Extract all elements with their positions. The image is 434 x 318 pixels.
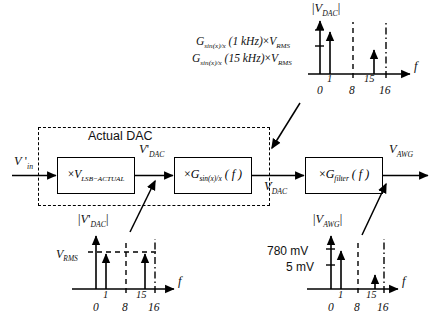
spectrum-vdac-prime-tick-8: 8 (122, 302, 128, 314)
annotation-gain-15khz: Gsin(x)/x (15 kHz)×VRMS (192, 53, 292, 67)
spectrum-vawg-tick-15: 15 (366, 290, 377, 301)
spectrum-vawg-tick-0: 0 (328, 302, 334, 314)
spectrum-vawg: |VAWG| 780 mV 5 mV 1 (265, 213, 415, 317)
block-filter-gain-label: ×Gfilter ( f ) (319, 167, 369, 183)
figure-canvas: |VDAC| 1 15 (0, 0, 434, 318)
block-filter-gain[interactable]: ×Gfilter ( f ) (305, 157, 383, 194)
signal-label-vin: V 'in (14, 155, 33, 170)
signal-label-vawg: VAWG (389, 143, 413, 158)
block-sinc-gain[interactable]: ×Gsin(x)/x ( f ) (174, 157, 252, 194)
spectrum-vdac-prime-ymarker-vrms: VRMS (56, 248, 78, 263)
spectrum-vdac-top-tick-1: 1 (327, 74, 332, 85)
spectrum-vawg-ymarker-780mv: 780 mV (267, 245, 308, 257)
spectrum-vdac-top-tick-16: 16 (379, 85, 391, 97)
spectrum-vdac-top-tick-0: 0 (317, 85, 323, 97)
spectrum-vawg-ymarker-5mv: 5 mV (286, 261, 314, 273)
spectrum-vawg-tick-8: 8 (354, 302, 360, 314)
block-sinc-gain-label: ×Gsin(x)/x ( f ) (184, 167, 242, 183)
block-lsb-actual-label: ×VLSB−ACTUAL (68, 168, 125, 183)
spectrum-vdac-prime-tick-1: 1 (103, 290, 108, 301)
spectrum-vawg-tick-1: 1 (338, 290, 343, 301)
spectrum-vdac-prime-tick-0: 0 (93, 302, 99, 314)
spectrum-vdac-prime: |V'DAC| VRMS 1 15 (56, 213, 196, 317)
spectrum-vdac-prime-xlabel: f (178, 275, 181, 288)
spectrum-vawg-tick-16: 16 (377, 302, 389, 314)
block-lsb-actual[interactable]: ×VLSB−ACTUAL (57, 157, 135, 194)
spectrum-vawg-ylabel: |VAWG| (313, 213, 342, 228)
annotation-gain-1khz: Gsin(x)/x (1 kHz)×VRMS (196, 36, 290, 50)
spectrum-vdac-prime-ylabel: |V'DAC| (78, 213, 108, 228)
spectrum-vdac-top-xlabel: f (414, 60, 417, 73)
spectrum-vdac-top-ylabel: |VDAC| (312, 2, 340, 17)
spectrum-vawg-xlabel: f (402, 275, 405, 288)
actual-dac-title: Actual DAC (88, 130, 153, 143)
spectrum-vdac-prime-tick-16: 16 (148, 302, 160, 314)
signal-label-vdac: VDAC (264, 180, 287, 195)
spectrum-vdac-top-tick-8: 8 (349, 85, 355, 97)
spectrum-vdac-prime-tick-15: 15 (136, 290, 147, 301)
signal-label-vdac-prime: V'DAC (139, 143, 164, 158)
spectrum-vdac-top-tick-15: 15 (364, 74, 375, 85)
spectrum-vdac-top: |VDAC| 1 15 (298, 2, 426, 94)
